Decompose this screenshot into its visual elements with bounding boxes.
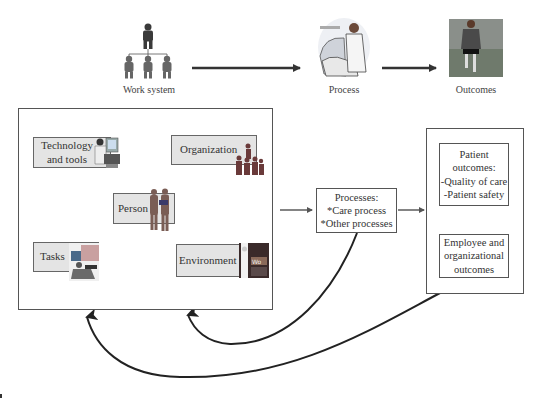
technology-label-line2: and tools	[34, 153, 100, 167]
patient-outcomes-line2: outcomes:	[440, 161, 508, 174]
other-processes-item: *Other processes	[317, 217, 396, 230]
environment-label: Environment	[177, 254, 236, 268]
patient-safety-item: -Patient safety	[440, 188, 508, 201]
building-scene-icon: Wo	[239, 243, 269, 278]
care-process-item: *Care process	[317, 204, 396, 217]
tasks-label: Tasks	[34, 250, 65, 264]
process-label: Process	[294, 84, 394, 95]
patient-outcomes-box: Patient outcomes: -Quality of care -Pati…	[439, 143, 509, 206]
outcomes-label: Outcomes	[426, 84, 526, 95]
computer-user-icon	[92, 136, 122, 170]
svg-text:Wo: Wo	[252, 258, 262, 265]
employee-outcomes-line3: outcomes	[440, 263, 508, 276]
processes-title: Processes:	[317, 191, 396, 204]
technology-label-line1: Technology	[34, 139, 100, 153]
runner-icon	[449, 19, 503, 77]
patient-outcomes-line1: Patient	[440, 148, 508, 161]
person-label: Person	[114, 202, 148, 216]
clinician-with-equipment-icon	[316, 16, 372, 78]
employee-outcomes-line1: Employee and	[440, 236, 508, 249]
processes-box: Processes: *Care process *Other processe…	[316, 188, 397, 233]
organization-label: Organization	[172, 143, 237, 157]
quality-of-care-item: -Quality of care	[440, 175, 508, 188]
employee-outcomes-line2: organizational	[440, 249, 508, 262]
group-meeting-icon	[234, 142, 264, 176]
two-people-icon	[147, 188, 173, 232]
employee-organizational-outcomes-box: Employee and organizational outcomes	[439, 234, 509, 278]
work-system-label: Work system	[99, 84, 199, 95]
worker-at-desk-icon	[69, 243, 99, 281]
org-chart-people-icon	[118, 22, 178, 80]
